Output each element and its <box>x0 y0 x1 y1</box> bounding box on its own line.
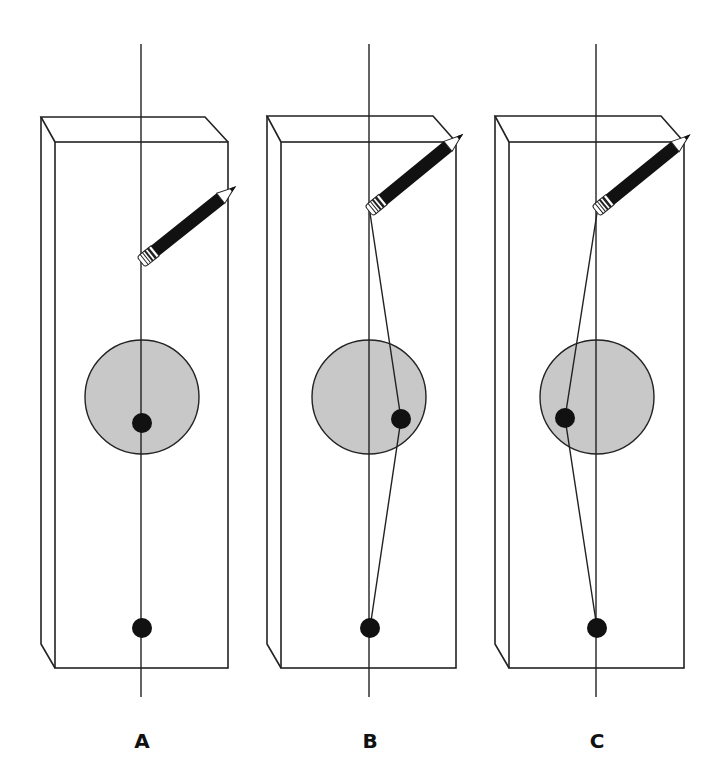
upper-dot <box>132 413 152 433</box>
lower-dot <box>132 618 152 638</box>
panel-b: B <box>267 44 468 753</box>
shaded-circle <box>540 340 654 454</box>
panel-label: B <box>362 729 377 753</box>
upper-dot <box>391 409 411 429</box>
lower-dot <box>587 618 607 638</box>
pencil-icon <box>137 181 240 267</box>
panel-label: C <box>590 729 605 753</box>
panel-c: C <box>495 44 695 753</box>
diagram-canvas: A B C <box>0 0 726 779</box>
lower-dot <box>360 618 380 638</box>
shaded-circle <box>85 340 199 454</box>
upper-dot <box>555 408 575 428</box>
panel-a: A <box>41 44 240 753</box>
panel-label: A <box>134 729 150 753</box>
